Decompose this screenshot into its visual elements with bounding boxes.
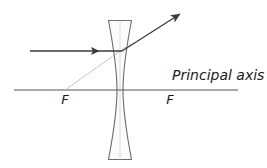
diagram-canvas: F F Principal axis xyxy=(0,0,267,168)
optics-ray-diagram: F F Principal axis xyxy=(0,0,267,168)
refracted-ray-line xyxy=(122,14,180,51)
focal-point-label-right: F xyxy=(166,92,174,107)
principal-axis-label: Principal axis xyxy=(172,67,264,83)
focal-point-label-left: F xyxy=(61,92,69,107)
